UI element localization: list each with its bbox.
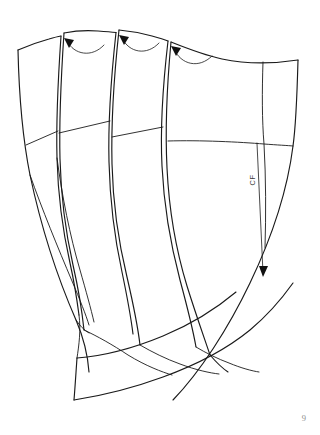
dart-rotation-arrow-right-curve bbox=[174, 49, 212, 64]
gore-2-inner-curve bbox=[84, 330, 172, 375]
gore-1-panel bbox=[18, 36, 89, 372]
center-front-internal-seam bbox=[262, 62, 265, 248]
center-front-left-seam bbox=[166, 42, 210, 355]
gore-1-right-seam bbox=[57, 36, 79, 315]
center-front-hip-line bbox=[168, 141, 293, 146]
pattern-draft-drawing: CF bbox=[0, 0, 320, 435]
pattern-sheet: CF 9 bbox=[0, 0, 320, 435]
center-front-hem-fall bbox=[210, 355, 228, 372]
convergence-line-b bbox=[57, 158, 94, 322]
gore-2-panel bbox=[59, 31, 133, 334]
center-front-waist-edge bbox=[171, 42, 298, 63]
gore-3-inner-curve bbox=[140, 345, 219, 374]
dart-rotation-arrow-right-head bbox=[171, 46, 181, 56]
gore-1-waist-edge bbox=[18, 36, 61, 50]
dart-rotation-arrow-middle-curve bbox=[122, 38, 159, 51]
gore-3-left-seam bbox=[112, 30, 140, 345]
hem-left-edge bbox=[74, 358, 77, 400]
hem-and-lower-outline bbox=[30, 158, 293, 400]
gore-2-waist-edge bbox=[64, 31, 116, 33]
page-number: 9 bbox=[302, 414, 306, 423]
dart-rotation-arrow-middle bbox=[119, 35, 159, 51]
gore-2-left-seam bbox=[60, 33, 84, 330]
grainline-arrow-head bbox=[259, 266, 268, 277]
center-front-panel: CF bbox=[166, 42, 298, 400]
center-front-right-edge bbox=[173, 60, 298, 400]
gore-3-right-seam bbox=[161, 41, 196, 347]
gore-2-hip-line bbox=[59, 121, 110, 133]
gore-1-hip-line bbox=[26, 131, 58, 145]
dart-rotation-arrow-middle-head bbox=[119, 35, 129, 45]
grainline-shaft bbox=[257, 143, 263, 273]
dart-rotation-arrow-left-head bbox=[64, 38, 74, 48]
gore-3-hip-line bbox=[112, 127, 163, 137]
dart-rotation-arrow-left bbox=[64, 38, 104, 53]
dart-rotation-arrow-left-curve bbox=[67, 41, 104, 53]
hem-sweep-inner bbox=[77, 292, 236, 358]
grainline-label: CF bbox=[248, 175, 257, 186]
gore-3-panel bbox=[112, 30, 196, 347]
